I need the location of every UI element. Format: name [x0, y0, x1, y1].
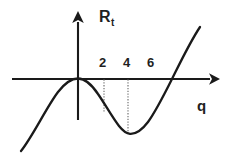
up-arrow-icon	[72, 11, 84, 23]
right-arrow-icon	[209, 73, 220, 85]
plot-canvas	[0, 0, 233, 159]
y-axis-label: Rt	[99, 9, 114, 28]
tick-label-6: 6	[147, 56, 154, 69]
y-axis-label-main: R	[99, 8, 111, 25]
y-axis-label-subscript: t	[111, 17, 114, 28]
tick-label-2: 2	[99, 56, 106, 69]
curve-rt-of-q	[21, 27, 200, 151]
tick-label-4: 4	[123, 56, 130, 69]
figure-container: Rt q 2 4 6	[0, 0, 233, 159]
x-axis-label: q	[197, 98, 206, 113]
